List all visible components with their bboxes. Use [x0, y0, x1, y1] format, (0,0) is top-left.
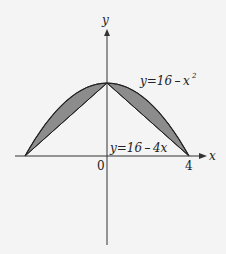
x-tick-4: 4	[185, 159, 193, 173]
x-axis-arrow-icon	[199, 153, 207, 159]
line-label: y=16 – 4x	[109, 141, 168, 155]
origin-label: 0	[97, 159, 105, 173]
line-left	[25, 83, 107, 156]
y-axis-arrow-icon	[104, 29, 110, 36]
x-axis-label: x	[209, 149, 216, 163]
y-axis-label: y	[101, 13, 109, 27]
parabola-label: y=16 – x	[139, 74, 190, 88]
parabola-exponent: 2	[191, 72, 197, 80]
area-diagram: y x 0 4 y=16 – x 2 y=16 – 4x	[0, 0, 226, 254]
